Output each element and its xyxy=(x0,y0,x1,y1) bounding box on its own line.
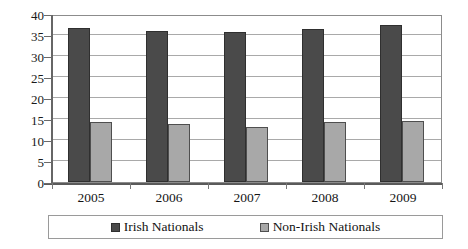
y-tick-mark xyxy=(44,162,52,163)
gridline xyxy=(53,13,441,14)
x-tick-label: 2007 xyxy=(208,191,286,205)
y-tick-label: 40 xyxy=(18,9,44,22)
legend-label: Irish Nationals xyxy=(124,220,204,234)
legend-entry: Non-Irish Nationals xyxy=(260,220,381,234)
y-tick-mark xyxy=(44,36,52,37)
y-tick-mark xyxy=(44,99,52,100)
bar-2009-irish xyxy=(380,25,402,182)
plot-area xyxy=(52,15,442,183)
y-tick-label: 15 xyxy=(18,114,44,127)
legend-label: Non-Irish Nationals xyxy=(273,220,381,234)
y-tick-label: 35 xyxy=(18,30,44,43)
y-tick-label: 0 xyxy=(18,177,44,190)
y-tick-label: 5 xyxy=(18,156,44,169)
x-tick-mark xyxy=(442,183,443,189)
legend-swatch-icon xyxy=(111,223,120,232)
x-tick-label: 2006 xyxy=(130,191,208,205)
legend-entry: Irish Nationals xyxy=(111,220,204,234)
y-tick-label: 20 xyxy=(18,93,44,106)
bar-2006-irish xyxy=(146,31,168,182)
bar-2007-irish xyxy=(224,32,246,182)
x-tick-label: 2008 xyxy=(286,191,364,205)
x-tick-label: 2009 xyxy=(364,191,442,205)
x-tick-mark xyxy=(52,183,53,189)
y-tick-mark xyxy=(44,141,52,142)
y-tick-mark xyxy=(44,15,52,16)
y-tick-mark xyxy=(44,120,52,121)
x-tick-mark xyxy=(130,183,131,189)
bar-2009-non-irish xyxy=(402,121,424,182)
bar-2008-non-irish xyxy=(324,122,346,182)
legend-swatch-icon xyxy=(260,223,269,232)
x-tick-mark xyxy=(364,183,365,189)
bar-2005-irish xyxy=(68,28,90,182)
y-tick-mark xyxy=(44,78,52,79)
x-axis-line xyxy=(44,183,443,185)
y-tick-label: 10 xyxy=(18,135,44,148)
x-tick-mark xyxy=(286,183,287,189)
x-tick-label: 2005 xyxy=(52,191,130,205)
y-tick-mark xyxy=(44,57,52,58)
y-tick-mark xyxy=(44,183,52,184)
bar-chart-figure: 0510152025303540 20052006200720082009 Ir… xyxy=(0,0,468,249)
chart-legend: Irish NationalsNon-Irish Nationals xyxy=(48,215,443,239)
x-tick-mark xyxy=(208,183,209,189)
bar-2005-non-irish xyxy=(90,122,112,182)
bar-2007-non-irish xyxy=(246,127,268,182)
bar-2008-irish xyxy=(302,29,324,182)
y-tick-label: 25 xyxy=(18,72,44,85)
y-tick-label: 30 xyxy=(18,51,44,64)
bar-2006-non-irish xyxy=(168,124,190,182)
